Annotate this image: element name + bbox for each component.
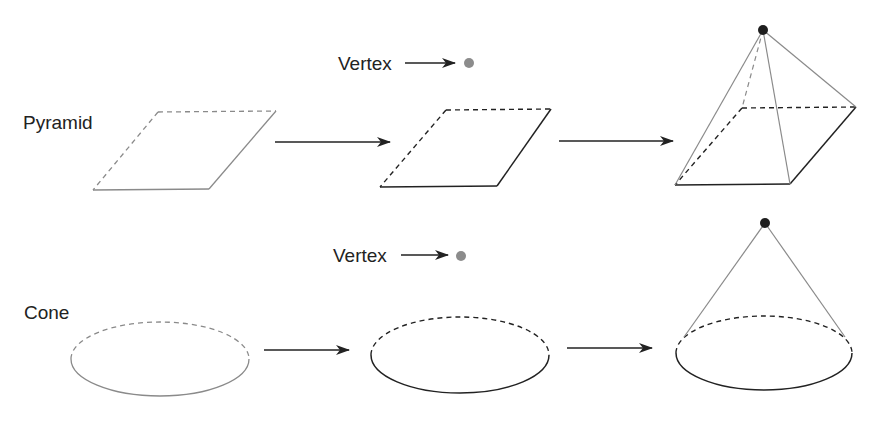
- vertex-point-icon: [464, 58, 474, 68]
- vertex-callout-pyramid: Vertex: [338, 53, 474, 74]
- vertex-label-cone: Vertex: [333, 245, 387, 266]
- cone-base-step2: [371, 317, 549, 393]
- cone-base-step1: [71, 322, 249, 396]
- pyramid-label: Pyramid: [23, 112, 93, 133]
- cone-label: Cone: [24, 302, 69, 323]
- vertex-point-icon: [456, 251, 466, 261]
- apex-vertex-icon: [760, 218, 770, 228]
- vertex-label-pyramid: Vertex: [338, 53, 392, 74]
- diagram-canvas: Pyramid Vertex Cone: [0, 0, 878, 427]
- cone-solid: [676, 218, 852, 390]
- apex-vertex-icon: [758, 25, 768, 35]
- vertex-callout-cone: Vertex: [333, 245, 466, 266]
- pyramid-base-step2: [380, 109, 551, 187]
- pyramid-solid: [675, 25, 856, 185]
- pyramid-base-step1: [93, 111, 276, 190]
